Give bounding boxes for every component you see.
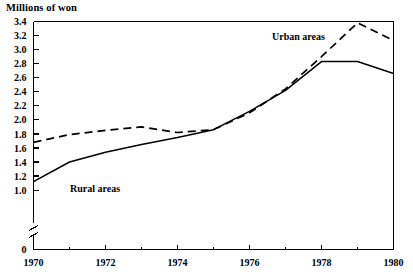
y-tick-label: 2.2	[14, 100, 27, 111]
x-tick-label: 1976	[240, 257, 260, 268]
annotations-layer: Urban areasRural areas	[70, 31, 325, 194]
y-tick-label: 1.0	[14, 185, 27, 196]
y-tick-label: 2.6	[14, 72, 27, 83]
y-tick-label: 1.2	[14, 171, 27, 182]
series-label-urban-areas: Urban areas	[272, 31, 325, 42]
y-tick-label: 3.2	[14, 30, 27, 41]
y-tick-label: 3.0	[14, 44, 27, 55]
line-chart-plot: 3.43.23.02.82.62.42.22.01.81.61.41.21.00…	[0, 0, 413, 275]
x-tick-label: 1970	[24, 257, 44, 268]
y-tick-label: 3.4	[14, 16, 27, 27]
y-tick-label: 1.8	[14, 129, 27, 140]
x-tick-label: 1980	[384, 257, 404, 268]
series-layer	[34, 23, 394, 182]
chart-figure: Millions of won 3.43.23.02.82.62.42.22.0…	[0, 0, 413, 275]
axis-break-mark-0	[29, 226, 38, 231]
axes-layer	[29, 22, 394, 250]
y-tick-label: 2.0	[14, 114, 27, 125]
series-line-rural-areas	[34, 62, 394, 182]
x-tick-label: 1978	[312, 257, 332, 268]
x-tick-label: 1972	[96, 257, 116, 268]
y-tick-label: 1.4	[14, 157, 27, 168]
series-line-urban-areas	[34, 23, 394, 142]
y-tick-label: 2.8	[14, 58, 27, 69]
x-tick-label: 1974	[168, 257, 188, 268]
tick-labels-layer: 3.43.23.02.82.62.42.22.01.81.61.41.21.00…	[14, 16, 404, 267]
y-tick-label: 1.6	[14, 143, 27, 154]
y-tick-label: 0	[22, 244, 27, 255]
y-tick-label: 2.4	[14, 86, 27, 97]
series-label-rural-areas: Rural areas	[70, 183, 120, 194]
